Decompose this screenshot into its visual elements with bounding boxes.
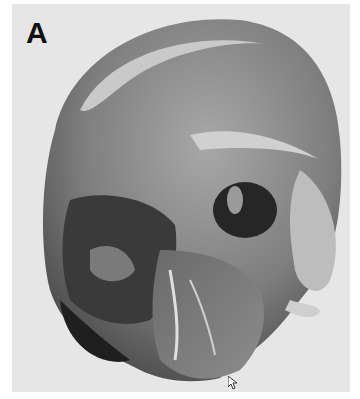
mouse-pointer-icon [228,376,238,390]
panel-label: A [26,18,48,48]
eye-orbit [213,182,277,238]
skull-rendering [0,0,360,399]
